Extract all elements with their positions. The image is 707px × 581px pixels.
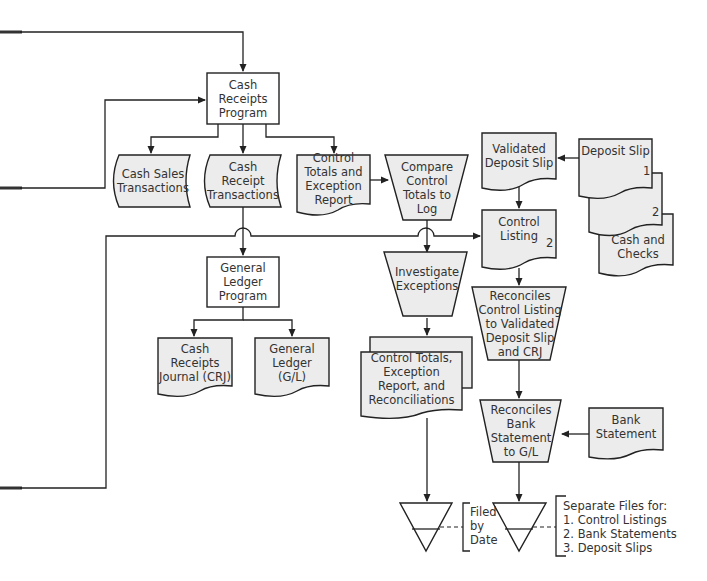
bank-statement-label: Bank Statement — [596, 410, 656, 444]
annotation-line: by — [470, 519, 498, 533]
control-totals-exception-report-label: Control Totals and Exception Report — [297, 155, 370, 203]
flowchart-canvas — [0, 0, 707, 581]
reconciles-bank-statement-label: Reconciles Bank Statement to G/L — [488, 402, 554, 460]
offline-file-1[interactable] — [400, 503, 452, 551]
cash-receipt-transactions-label: Cash Receipt Transactions — [207, 155, 279, 207]
general-ledger-label: General Ledger (G/L) — [262, 340, 322, 386]
deposit-slip-label: Deposit Slip — [579, 141, 652, 161]
cash-receipts-journal-label: Cash Receipts Journal (CRJ) — [158, 340, 232, 386]
annotation-line: Filed — [470, 505, 498, 519]
validated-deposit-slip-label: Validated Deposit Slip — [484, 133, 554, 179]
offline-file-2[interactable] — [493, 503, 546, 551]
deposit-slip-copy-number-2: 2 — [652, 205, 659, 219]
annotation-line: 2. Bank Statements — [563, 527, 677, 541]
separate-files-annotation: Separate Files for: 1. Control Listings … — [563, 499, 677, 555]
general-ledger-program-label: General Ledger Program — [207, 257, 279, 307]
annotation-line: Date — [470, 533, 498, 547]
control-listing-label: Control Listing — [482, 212, 556, 246]
off-page-connectors — [0, 32, 22, 488]
cash-receipts-program-label: Cash Receipts Program — [207, 73, 279, 124]
control-totals-reports-label: Control Totals, Exception Report, and Re… — [361, 354, 462, 404]
annotation-line: 3. Deposit Slips — [563, 541, 677, 555]
compare-control-totals-label: Compare Control Totals to Log — [396, 158, 458, 218]
filed-by-date-annotation: Filed by Date — [470, 505, 498, 547]
investigate-exceptions-label: Investigate Exceptions — [398, 262, 456, 296]
annotation-line: Separate Files for: — [563, 499, 677, 513]
cash-sales-transactions-label: Cash Sales Transactions — [117, 155, 189, 207]
control-listing-copy-number: 2 — [546, 236, 553, 250]
cash-and-checks-label: Cash and Checks — [603, 232, 673, 262]
reconciles-control-listing-label: Reconciles Control Listing to Validated … — [478, 290, 562, 358]
annotation-line: 1. Control Listings — [563, 513, 677, 527]
deposit-slip-copy-number-1: 1 — [643, 164, 650, 178]
